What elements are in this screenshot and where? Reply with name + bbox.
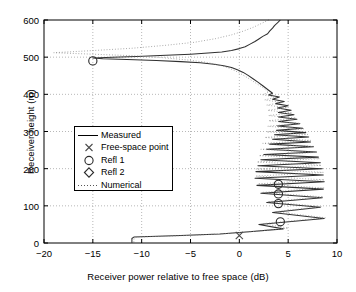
legend-item-label: Refl 2: [101, 166, 125, 179]
y-tick-label: 100: [9, 200, 39, 211]
plot-canvas: [0, 0, 356, 292]
chart-figure: Receiver power relative to free space (d…: [0, 0, 356, 292]
x-axis-label: Receiver power relative to free space (d…: [0, 271, 356, 282]
x-tick-label: −20: [36, 248, 52, 259]
x-tick-label: −10: [134, 248, 150, 259]
x-tick-label: −15: [85, 248, 101, 259]
legend-diamond-marker-icon: [75, 166, 101, 179]
y-tick-label: 200: [9, 163, 39, 174]
legend-item-label: Free-space point: [101, 141, 169, 154]
chart-legend: MeasuredFree-space pointRefl 1Refl 2Nume…: [74, 126, 173, 191]
legend-x-marker-icon: [75, 141, 101, 154]
legend-item-refl-1: Refl 1: [75, 154, 174, 167]
legend-item-numerical: Numerical: [75, 179, 174, 192]
x-tick-label: 10: [332, 248, 343, 259]
x-tick-label: 0: [237, 248, 242, 259]
x-tick-label: −5: [185, 248, 196, 259]
y-tick-label: 600: [9, 15, 39, 26]
legend-dotted-line-icon: [75, 179, 101, 192]
legend-item-measured: Measured: [75, 129, 174, 142]
y-tick-label: 300: [9, 126, 39, 137]
y-tick-label: 0: [9, 238, 39, 249]
legend-item-label: Refl 1: [101, 154, 125, 167]
legend-circle-marker-icon: [75, 154, 101, 167]
y-tick-label: 500: [9, 52, 39, 63]
x-tick-label: 5: [286, 248, 291, 259]
legend-item-free-space-point: Free-space point: [75, 141, 174, 154]
y-tick-label: 400: [9, 89, 39, 100]
legend-item-label: Measured: [101, 129, 141, 142]
legend-solid-line-icon: [75, 129, 101, 142]
legend-item-refl-2: Refl 2: [75, 166, 174, 179]
legend-item-label: Numerical: [101, 179, 142, 192]
